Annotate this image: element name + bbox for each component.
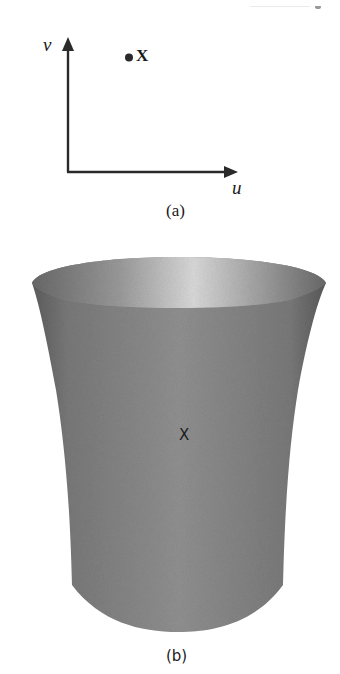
flared-surface-render (0, 230, 340, 674)
surface-body (32, 257, 326, 632)
point-x-label: X (136, 47, 148, 64)
figure-a-parameter-domain: v X u (a) (0, 0, 340, 230)
figure-b-caption: (b) (166, 649, 187, 664)
surface-point-x-label: X (179, 428, 189, 443)
u-axis-label: u (232, 178, 242, 197)
v-axis-label: v (43, 35, 51, 54)
figure-b-surface: X (b) (0, 230, 340, 674)
figure-a-caption: (a) (166, 202, 185, 219)
point-x-dot-icon (125, 54, 133, 62)
v-axis-arrowhead-icon (62, 37, 74, 51)
surface-inner-rim (32, 257, 326, 308)
